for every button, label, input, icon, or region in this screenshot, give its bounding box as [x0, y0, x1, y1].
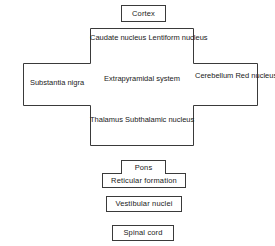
node-thalamus-line2: Subthalamic nucleus	[125, 115, 194, 124]
node-thalamus: Thalamus Subthalamic nucleus	[90, 115, 194, 126]
node-spinal-cord-label: Spinal cord	[123, 228, 162, 238]
node-basal-ganglia-line2: Lentiform nucleus	[148, 33, 207, 42]
node-cortex: Cortex	[121, 5, 166, 22]
node-basal-ganglia-line1: Caudate nucleus	[90, 33, 146, 42]
node-thalamus-line1: Thalamus	[90, 115, 123, 124]
node-substantia-nigra-label: Substantia nigra	[30, 78, 84, 87]
node-extrapyramidal-system-line2: system	[156, 74, 180, 83]
node-cerebellum: Cerebellum Red nucleus	[195, 71, 258, 82]
node-extrapyramidal-system: Extrapyramidal system	[95, 74, 189, 85]
node-cerebellum-line2: Red nucleus	[235, 71, 275, 80]
node-vestibular-nuclei: Vestibular nuclei	[106, 196, 182, 212]
node-vestibular-nuclei-label: Vestibular nuclei	[115, 199, 172, 209]
node-reticular-formation-label: Reticular formation	[111, 176, 177, 186]
node-extrapyramidal-system-line1: Extrapyramidal	[104, 74, 154, 83]
extrapyramidal-system-diagram: Cortex Caudate nucleus Lentiform nucleus…	[0, 0, 275, 246]
node-pons-label: Pons	[135, 163, 153, 173]
node-spinal-cord: Spinal cord	[112, 225, 174, 241]
node-basal-ganglia: Caudate nucleus Lentiform nucleus	[90, 33, 194, 44]
node-cortex-label: Cortex	[132, 9, 155, 19]
node-cerebellum-line1: Cerebellum	[195, 71, 233, 80]
node-pons: Pons	[121, 160, 166, 174]
node-reticular-formation: Reticular formation	[102, 173, 186, 188]
node-substantia-nigra: Substantia nigra	[24, 78, 90, 89]
